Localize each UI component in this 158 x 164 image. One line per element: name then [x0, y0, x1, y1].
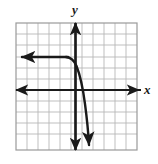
- x-axis-label: x: [144, 83, 151, 96]
- coordinate-plane-figure: y x: [0, 0, 158, 164]
- graph-canvas: [0, 0, 158, 164]
- y-axis-label: y: [72, 3, 78, 16]
